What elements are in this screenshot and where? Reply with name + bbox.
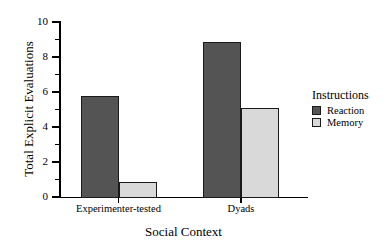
- chart-figure: Total Explicit Evaluations 1086420 Exper…: [0, 0, 387, 250]
- y-tick-4: [52, 126, 60, 128]
- bar-dyads-memory: [241, 108, 279, 198]
- y-minor-tick-7: [55, 74, 60, 75]
- legend-item-reaction[interactable]: Reaction: [312, 105, 387, 116]
- y-tick-label-8: 8: [2, 51, 48, 62]
- legend-label-memory: Memory: [327, 117, 363, 128]
- legend-swatch-reaction-icon: [312, 106, 321, 115]
- legend-title: Instructions: [312, 88, 387, 103]
- y-tick-label-4: 4: [2, 121, 48, 132]
- bar-dyads-reaction: [203, 42, 241, 198]
- legend-item-memory[interactable]: Memory: [312, 117, 387, 128]
- y-tick-6: [52, 91, 60, 93]
- bar-experimenter-tested-reaction: [81, 96, 119, 199]
- y-tick-label-6: 6: [2, 86, 48, 97]
- legend-entries: ReactionMemory: [312, 105, 387, 128]
- y-tick-label-2: 2: [2, 156, 48, 167]
- y-tick-10: [52, 21, 60, 23]
- legend-label-reaction: Reaction: [327, 105, 364, 116]
- y-minor-tick-9: [55, 39, 60, 40]
- bar-experimenter-tested-memory: [119, 182, 157, 198]
- y-tick-8: [52, 56, 60, 58]
- y-axis-title: Total Explicit Evaluations: [21, 14, 37, 204]
- y-minor-tick-1: [55, 179, 60, 180]
- y-tick-label-0: 0: [2, 191, 48, 202]
- y-tick-label-10: 10: [2, 16, 48, 27]
- legend: Instructions ReactionMemory: [312, 88, 387, 129]
- y-minor-tick-5: [55, 109, 60, 110]
- y-tick-2: [52, 161, 60, 163]
- y-tick-0: [52, 196, 60, 198]
- x-axis-title: Social Context: [59, 224, 308, 240]
- legend-swatch-memory-icon: [312, 118, 321, 127]
- plot-area: Total Explicit Evaluations 1086420 Exper…: [0, 0, 387, 250]
- x-axis-label-dyads: Dyads: [161, 203, 321, 214]
- y-minor-tick-3: [55, 144, 60, 145]
